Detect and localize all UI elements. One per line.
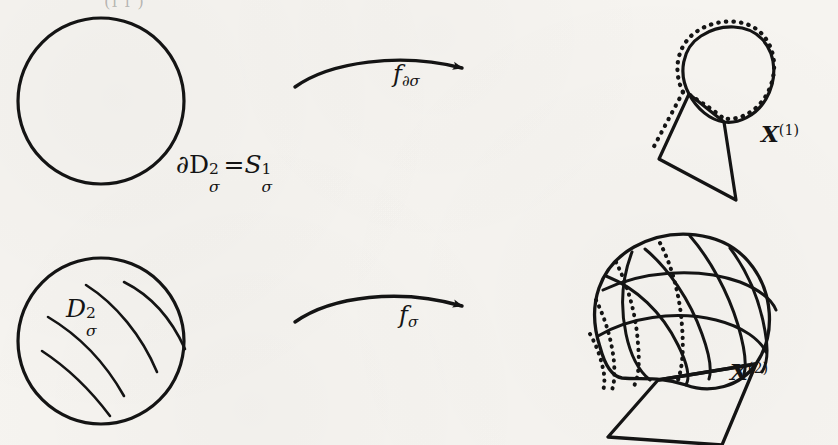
sphere-symbol: S	[244, 150, 261, 179]
boundary-circle	[18, 18, 184, 184]
boundary-circle-group	[18, 18, 184, 184]
disk-hatching	[20, 282, 185, 416]
label-boundary-disk: ∂D2σ=S1σ	[176, 152, 276, 177]
label-x2: X(2)	[730, 360, 768, 384]
arrow-f-sigma	[295, 296, 462, 322]
one-skeleton-group	[651, 22, 774, 201]
map-f-subscript: ∂σ	[402, 72, 420, 90]
figure-root: (i i )	[0, 0, 838, 445]
x1-superscript: (1)	[779, 122, 799, 138]
loop-cell	[683, 27, 774, 122]
disk-circle-group	[18, 258, 185, 424]
map-f-symbol: f	[393, 60, 402, 88]
partial-symbol: ∂D	[176, 150, 209, 179]
map-f-subscript: σ	[408, 313, 418, 331]
arrow-f-boundary-sigma	[295, 60, 462, 87]
label-x1: X(1)	[761, 122, 799, 146]
x2-superscript: (2)	[748, 360, 768, 376]
one-skeleton-quadrilateral	[659, 94, 736, 200]
x-symbol: X	[730, 358, 748, 385]
dome-dotted-curves	[590, 243, 683, 393]
disk-symbol: D	[66, 294, 86, 323]
x-symbol: X	[761, 120, 779, 147]
arrow-top-group	[295, 60, 462, 87]
two-skeleton-group	[590, 234, 776, 445]
disk-circle	[18, 258, 184, 424]
label-arrow-top: f∂σ	[393, 62, 420, 89]
equals-sign: =	[223, 150, 244, 179]
arrow-bottom-group	[295, 296, 462, 322]
map-f-symbol: f	[399, 301, 408, 329]
label-disk: D2σ	[66, 296, 101, 321]
label-arrow-bottom: fσ	[399, 303, 418, 330]
